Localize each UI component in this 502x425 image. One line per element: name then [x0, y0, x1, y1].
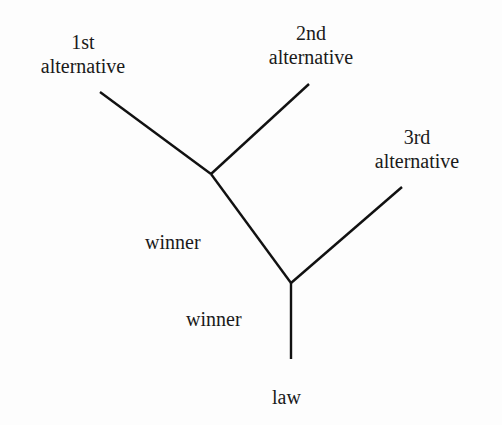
node-3rd-alternative: 3rd alternative	[360, 125, 474, 173]
node-3rd-sublabel: alternative	[360, 149, 474, 173]
node-2nd-label: 2nd	[254, 21, 368, 45]
node-2nd-sublabel: alternative	[254, 45, 368, 69]
node-winner-1: winner	[145, 230, 201, 254]
edge-alt3-junction2	[291, 187, 402, 283]
voting-tree-diagram: 1st alternative 2nd alternative 3rd alte…	[0, 0, 502, 425]
node-winner-2: winner	[186, 307, 242, 331]
edge-alt1-junction1	[100, 92, 211, 174]
node-1st-sublabel: alternative	[26, 54, 140, 78]
node-1st-label: 1st	[26, 30, 140, 54]
node-law: law	[272, 385, 301, 409]
edge-junction1-junction2	[211, 174, 291, 283]
node-1st-alternative: 1st alternative	[26, 30, 140, 78]
node-2nd-alternative: 2nd alternative	[254, 21, 368, 69]
node-3rd-label: 3rd	[360, 125, 474, 149]
edge-alt2-junction1	[211, 84, 309, 174]
